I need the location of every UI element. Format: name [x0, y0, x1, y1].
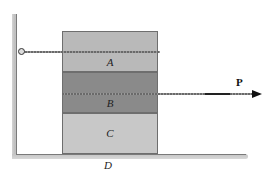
block-a-label: A	[63, 56, 157, 68]
block-c-label: C	[63, 127, 157, 139]
arrow-right-icon	[252, 90, 262, 98]
block-b-label: B	[63, 97, 157, 109]
rope-a-to-wall	[22, 51, 160, 53]
block-c: C	[62, 113, 158, 154]
wall-edge	[16, 14, 17, 155]
pin-icon	[18, 48, 25, 55]
surface-label: D	[104, 159, 112, 171]
rope-b-handle	[205, 93, 230, 95]
floor-edge	[16, 154, 246, 155]
force-label: P	[236, 76, 243, 88]
